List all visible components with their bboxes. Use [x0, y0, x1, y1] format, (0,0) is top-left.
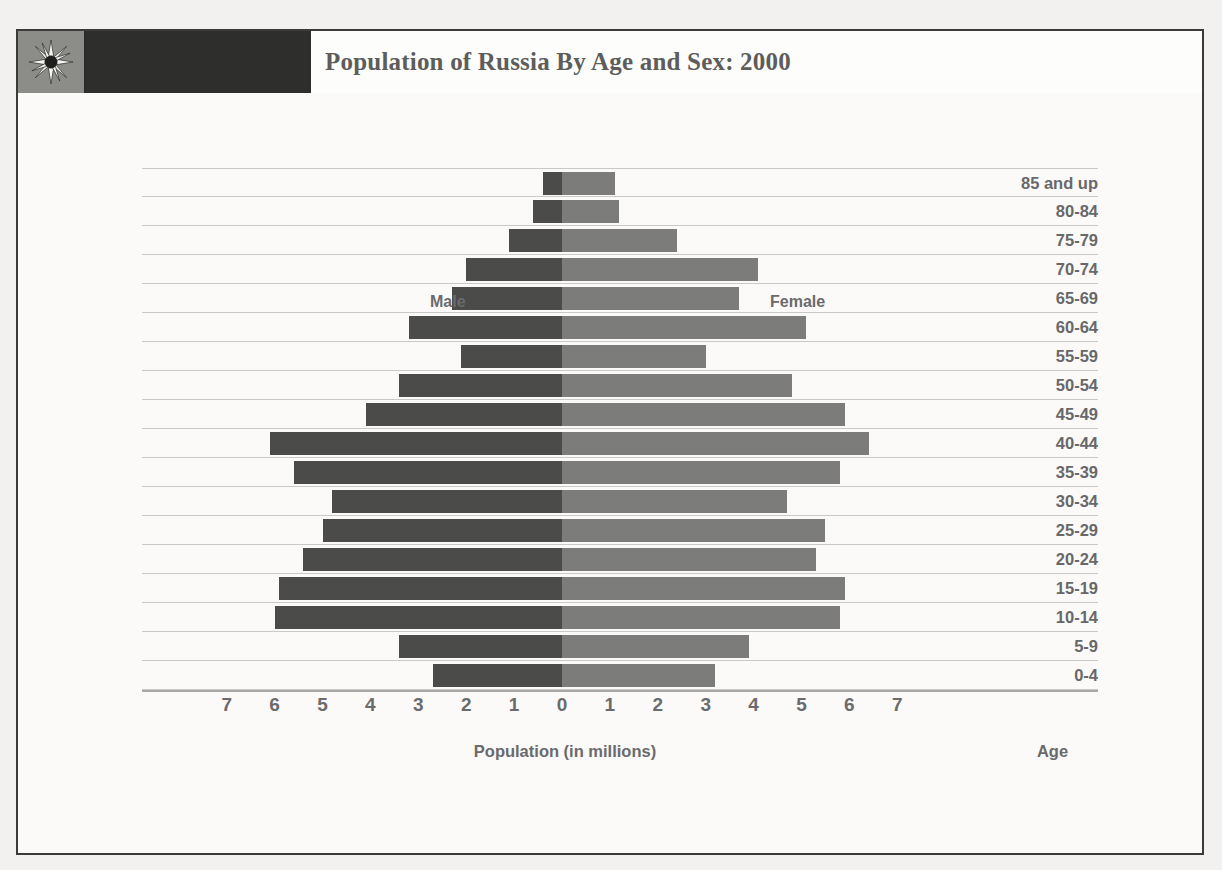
bar-female — [562, 229, 677, 252]
pyramid-row: 15-19 — [142, 574, 1098, 603]
logo-box — [18, 31, 86, 93]
pyramid-row: 20-24 — [142, 545, 1098, 574]
x-tick-label: 0 — [557, 694, 568, 716]
bar-male — [303, 548, 562, 571]
title-bar-dark-block — [86, 31, 308, 93]
pyramid-row: 0-4 — [142, 661, 1098, 690]
pyramid-row: 60-64 — [142, 313, 1098, 342]
bar-male — [332, 490, 562, 513]
age-group-label: 0-4 — [898, 666, 1098, 685]
bar-female — [562, 461, 840, 484]
x-axis-title: Population (in millions) — [420, 742, 710, 761]
x-tick-label: 3 — [700, 694, 711, 716]
bar-male — [533, 200, 562, 223]
x-tick-label: 5 — [317, 694, 328, 716]
x-tick-label: 6 — [844, 694, 855, 716]
x-tick-label: 3 — [413, 694, 424, 716]
bar-female — [562, 316, 806, 339]
age-group-label: 80-84 — [898, 202, 1098, 221]
pyramid-row: 50-54 — [142, 371, 1098, 400]
bar-male — [466, 258, 562, 281]
x-tick-label: 2 — [461, 694, 472, 716]
title-bar-white-block: Population of Russia By Age and Sex: 200… — [308, 31, 1202, 93]
title-bar: Population of Russia By Age and Sex: 200… — [18, 31, 1202, 93]
bar-female — [562, 374, 792, 397]
bar-male — [399, 374, 562, 397]
bar-male — [294, 461, 562, 484]
x-tick-label: 4 — [748, 694, 759, 716]
x-axis-line — [142, 690, 1098, 692]
bar-male — [323, 519, 563, 542]
bar-male — [399, 635, 562, 658]
bar-female — [562, 548, 816, 571]
age-group-label: 85 and up — [898, 174, 1098, 193]
age-group-label: 20-24 — [898, 550, 1098, 569]
x-tick-label: 5 — [796, 694, 807, 716]
x-tick-label: 2 — [653, 694, 664, 716]
bar-male — [270, 432, 562, 455]
x-tick-label: 7 — [221, 694, 232, 716]
age-group-label: 30-34 — [898, 492, 1098, 511]
age-group-label: 35-39 — [898, 463, 1098, 482]
age-group-label: 60-64 — [898, 318, 1098, 337]
pyramid-row: 80-84 — [142, 197, 1098, 226]
age-column-title: Age — [1005, 742, 1100, 761]
age-group-label: 45-49 — [898, 405, 1098, 424]
pyramid-row: 55-59 — [142, 342, 1098, 371]
bar-male — [433, 664, 562, 687]
bar-female — [562, 172, 615, 195]
age-group-label: 10-14 — [898, 608, 1098, 627]
pyramid-row: 35-39 — [142, 458, 1098, 487]
sunburst-star-icon — [28, 39, 74, 85]
pyramid-row: 5-9 — [142, 632, 1098, 661]
pyramid-row: 70-74 — [142, 255, 1098, 284]
bar-male — [279, 577, 562, 600]
age-group-label: 55-59 — [898, 347, 1098, 366]
bar-female — [562, 258, 758, 281]
x-tick-label: 4 — [365, 694, 376, 716]
pyramid-row: 85 and up — [142, 168, 1098, 197]
bar-female — [562, 664, 715, 687]
age-group-label: 5-9 — [898, 637, 1098, 656]
bar-female — [562, 577, 845, 600]
age-group-label: 65-69 — [898, 289, 1098, 308]
age-group-label: 50-54 — [898, 376, 1098, 395]
pyramid-row: 10-14 — [142, 603, 1098, 632]
bar-male — [452, 287, 562, 310]
bar-female — [562, 432, 869, 455]
bar-female — [562, 345, 706, 368]
bar-female — [562, 490, 787, 513]
pyramid-plot-area: 85 and up80-8475-7970-7465-6960-6455-595… — [142, 168, 1098, 690]
bar-male — [461, 345, 562, 368]
bar-male — [409, 316, 562, 339]
pyramid-row: 30-34 — [142, 487, 1098, 516]
bar-male — [509, 229, 562, 252]
bar-male — [543, 172, 562, 195]
age-group-label: 75-79 — [898, 231, 1098, 250]
age-group-label: 15-19 — [898, 579, 1098, 598]
x-tick-label: 1 — [509, 694, 520, 716]
pyramid-row: 40-44 — [142, 429, 1098, 458]
pyramid-row: 75-79 — [142, 226, 1098, 255]
bar-female — [562, 635, 749, 658]
series-label-female: Female — [770, 293, 825, 311]
x-tick-label: 7 — [892, 694, 903, 716]
age-group-label: 70-74 — [898, 260, 1098, 279]
bar-female — [562, 606, 840, 629]
page-title: Population of Russia By Age and Sex: 200… — [311, 48, 791, 76]
bar-male — [275, 606, 562, 629]
bar-female — [562, 287, 739, 310]
bar-female — [562, 403, 845, 426]
bar-female — [562, 200, 619, 223]
age-group-label: 25-29 — [898, 521, 1098, 540]
pyramid-row: 65-69 — [142, 284, 1098, 313]
age-group-label: 40-44 — [898, 434, 1098, 453]
pyramid-row: 45-49 — [142, 400, 1098, 429]
series-label-male: Male — [430, 293, 466, 311]
x-tick-label: 6 — [269, 694, 280, 716]
x-tick-label: 1 — [605, 694, 616, 716]
pyramid-row: 25-29 — [142, 516, 1098, 545]
x-axis-tick-labels: 765432101234567 — [142, 694, 1098, 720]
bar-male — [366, 403, 562, 426]
bar-female — [562, 519, 825, 542]
